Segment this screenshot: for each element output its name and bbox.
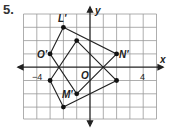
- coordinate-graph: x y O −4 4 L' N' M' O': [0, 0, 170, 129]
- label-L-prime: L': [58, 13, 67, 24]
- label-N-prime: N': [119, 49, 129, 60]
- y-axis-label: y: [94, 5, 101, 16]
- axes: [18, 7, 163, 126]
- tick-label-4: 4: [140, 72, 145, 82]
- label-M-prime: M': [62, 89, 73, 100]
- x-axis-label: x: [159, 54, 166, 65]
- label-O-prime: O': [37, 49, 48, 60]
- tick-label-neg4: −4: [32, 72, 42, 82]
- origin-label: O: [81, 70, 89, 81]
- figure-prime: [50, 27, 117, 94]
